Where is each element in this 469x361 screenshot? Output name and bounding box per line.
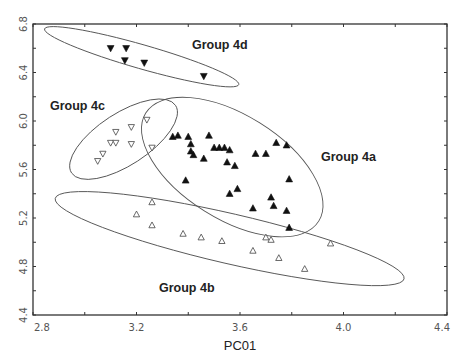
x-tick-label: 2.8 (34, 322, 50, 333)
group-label-4a: Group 4a (321, 150, 377, 164)
x-tick-label: 3.2 (129, 322, 145, 333)
filled-triangle-up-marker (182, 177, 189, 183)
filled-triangle-up-marker (273, 139, 280, 145)
open-triangle-up-marker (250, 247, 256, 253)
open-triangle-up-marker (149, 199, 155, 205)
filled-triangle-up-marker (185, 133, 192, 139)
x-tick-label: 3.6 (232, 322, 248, 333)
plot-frame (33, 24, 447, 315)
filled-triangle-up-marker (224, 159, 231, 165)
filled-triangle-down-marker (121, 58, 128, 64)
ellipse-group-4d (41, 17, 242, 96)
open-triangle-down-marker (100, 151, 106, 157)
y-tick-label: 4.8 (18, 259, 29, 275)
filled-triangle-up-marker (206, 132, 213, 138)
group-label-4d: Group 4d (192, 38, 248, 52)
filled-triangle-down-marker (141, 60, 148, 66)
filled-triangle-down-marker (107, 46, 114, 52)
filled-triangle-down-marker (123, 46, 130, 52)
filled-triangle-up-marker (262, 150, 269, 156)
open-triangle-up-marker (198, 234, 204, 240)
y-tick-label: 5.2 (18, 210, 29, 226)
open-triangle-up-marker (276, 255, 282, 261)
open-triangle-up-marker (302, 266, 308, 272)
filled-triangle-up-marker (250, 205, 257, 211)
filled-triangle-up-marker (187, 140, 194, 146)
open-triangle-up-marker (133, 211, 139, 217)
filled-triangle-up-marker (252, 150, 259, 156)
filled-triangle-up-marker (270, 202, 277, 208)
scatter-plot: 2.83.23.64.04.44.44.85.25.66.06.46.8 PC0… (0, 0, 469, 361)
open-triangle-down-marker (144, 117, 150, 123)
y-tick-label: 4.4 (18, 307, 29, 323)
filled-triangle-up-marker (200, 155, 207, 161)
y-tick-label: 6.0 (18, 113, 29, 129)
filled-triangle-up-marker (234, 185, 241, 191)
filled-triangle-up-marker (231, 162, 238, 168)
open-triangle-down-marker (128, 125, 134, 131)
open-triangle-up-marker (180, 230, 186, 236)
filled-triangle-up-marker (268, 194, 275, 200)
open-triangle-up-marker (149, 222, 155, 228)
filled-triangle-up-marker (283, 207, 290, 213)
filled-triangle-down-marker (200, 73, 207, 79)
filled-triangle-up-marker (226, 190, 233, 196)
y-tick-label: 5.6 (18, 162, 29, 178)
y-tick-label: 6.4 (18, 65, 29, 81)
x-tick-label: 4.4 (434, 322, 450, 333)
open-triangle-down-marker (113, 140, 119, 146)
open-triangle-down-marker (95, 159, 101, 165)
y-tick-label: 6.8 (18, 16, 29, 32)
filled-triangle-up-marker (221, 144, 228, 150)
group-label-4b: Group 4b (159, 281, 215, 295)
filled-triangle-up-marker (286, 176, 293, 182)
plot-border (33, 24, 447, 315)
open-triangle-down-marker (113, 129, 119, 135)
open-triangle-up-marker (219, 238, 225, 244)
open-triangle-down-marker (128, 142, 134, 148)
group-label-4c: Group 4c (50, 99, 105, 113)
x-axis-title: PC01 (224, 338, 257, 353)
filled-triangle-up-marker (174, 132, 181, 138)
x-tick-label: 4.0 (336, 322, 352, 333)
